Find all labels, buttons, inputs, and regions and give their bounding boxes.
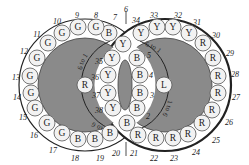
position-label-10: 10 <box>53 17 61 26</box>
ball-27[interactable]: R <box>210 85 226 101</box>
position-label-36: 36 <box>90 73 99 82</box>
position-label-18: 18 <box>71 154 79 163</box>
ball-letter: Y <box>110 103 117 113</box>
ball-letter: B <box>137 70 143 80</box>
ball-36[interactable]: Y <box>100 67 116 83</box>
position-label-3: 3 <box>149 91 154 100</box>
position-label-26: 26 <box>225 118 233 127</box>
ball-letter: R <box>209 105 216 115</box>
ball-5[interactable]: B <box>129 50 145 66</box>
position-label-33: 33 <box>149 11 158 20</box>
position-label-15: 15 <box>19 113 27 122</box>
ball-34[interactable]: Y <box>133 25 149 41</box>
position-label-34: 34 <box>131 16 140 25</box>
ball-9[interactable]: G <box>70 19 86 35</box>
ball-37[interactable]: Y <box>100 85 116 101</box>
ball-letter: G <box>27 71 34 81</box>
ball-letter: B <box>124 118 130 128</box>
ball-6[interactable]: Y <box>115 36 131 52</box>
ball-letter: B <box>106 28 112 38</box>
pivot-letter: R <box>82 80 89 90</box>
ball-letter: G <box>34 53 41 63</box>
ball-letter: R <box>210 53 217 63</box>
ball-letter: B <box>137 88 143 98</box>
position-label-25: 25 <box>212 136 220 145</box>
ball-letter: Y <box>105 88 112 98</box>
position-label-16: 16 <box>30 131 38 140</box>
ball-14[interactable]: G <box>23 85 39 101</box>
position-label-32: 32 <box>173 11 182 20</box>
ball-18[interactable]: B <box>70 131 86 147</box>
ball-letter: G <box>59 28 66 38</box>
ball-32[interactable]: Y <box>165 19 181 35</box>
ball-22[interactable]: R <box>148 130 164 146</box>
ball-28[interactable]: R <box>210 68 226 84</box>
ball-letter: G <box>44 118 51 128</box>
ball-3[interactable]: B <box>132 85 148 101</box>
puzzle-diagram: 6 to 1 1 to 6 6 to 1 1 to 6 BBBBBYBGGGGG… <box>0 0 249 165</box>
ball-letter: R <box>215 88 222 98</box>
position-label-14: 14 <box>13 93 21 102</box>
position-label-30: 30 <box>211 31 220 40</box>
ball-21[interactable]: R <box>130 127 146 143</box>
ball-15[interactable]: G <box>27 100 43 116</box>
position-label-4: 4 <box>149 71 153 80</box>
ball-35[interactable]: Y <box>104 50 120 66</box>
ball-letter: B <box>75 134 81 144</box>
ball-16[interactable]: G <box>39 115 55 131</box>
ball-letter: R <box>199 118 206 128</box>
ball-10[interactable]: G <box>54 25 70 41</box>
ball-letter: B <box>107 128 113 138</box>
position-label-9: 9 <box>75 11 79 20</box>
position-label-31: 31 <box>192 18 201 27</box>
ball-letter: Y <box>138 28 145 38</box>
position-label-20: 20 <box>112 149 120 158</box>
ball-letter: Y <box>105 70 112 80</box>
position-label-24: 24 <box>192 148 200 157</box>
position-label-13: 13 <box>12 73 20 82</box>
ball-letter: Y <box>120 39 127 49</box>
ball-8[interactable]: G <box>88 19 104 35</box>
puzzle-canvas: 6 to 1 1 to 6 6 to 1 1 to 6 BBBBBYBGGGGG… <box>0 0 249 165</box>
ball-4[interactable]: B <box>132 67 148 83</box>
pivot-letter: L <box>161 80 167 90</box>
ball-letter: R <box>185 129 192 139</box>
ball-23[interactable]: R <box>165 130 181 146</box>
ball-24[interactable]: R <box>180 126 196 142</box>
position-label-2: 2 <box>146 112 150 121</box>
center-lens <box>118 60 132 110</box>
ball-29[interactable]: R <box>205 50 221 66</box>
ball-letter: R <box>135 130 142 140</box>
position-label-27: 27 <box>232 93 241 102</box>
ball-letter: Y <box>186 28 193 38</box>
ball-letter: B <box>92 134 98 144</box>
ball-17[interactable]: G <box>54 125 70 141</box>
ball-30[interactable]: R <box>195 35 211 51</box>
ball-letter: B <box>134 103 140 113</box>
position-label-38: 38 <box>94 106 103 115</box>
ball-letter: R <box>200 38 207 48</box>
position-label-12: 12 <box>20 47 28 56</box>
position-label-37: 37 <box>91 91 101 100</box>
ball-31[interactable]: Y <box>181 25 197 41</box>
ball-letter: Y <box>109 53 116 63</box>
position-label-21: 21 <box>130 149 138 158</box>
ball-33[interactable]: Y <box>149 19 165 35</box>
ball-letter: G <box>59 128 66 138</box>
ball-25[interactable]: R <box>194 115 210 131</box>
ball-letter: G <box>45 38 52 48</box>
ball-11[interactable]: G <box>40 35 56 51</box>
ball-letter: R <box>170 133 177 143</box>
ball-38[interactable]: Y <box>105 100 121 116</box>
ball-2[interactable]: B <box>129 100 145 116</box>
ball-26[interactable]: R <box>204 102 220 118</box>
right-pivot[interactable]: L <box>156 77 172 93</box>
position-label-8: 8 <box>94 11 98 20</box>
ball-letter: G <box>93 22 100 32</box>
ball-letter: R <box>215 71 222 81</box>
ball-19[interactable]: B <box>87 131 103 147</box>
position-label-28: 28 <box>231 70 239 79</box>
ball-12[interactable]: G <box>29 50 45 66</box>
ball-20[interactable]: B <box>102 125 118 141</box>
ball-13[interactable]: G <box>22 68 38 84</box>
